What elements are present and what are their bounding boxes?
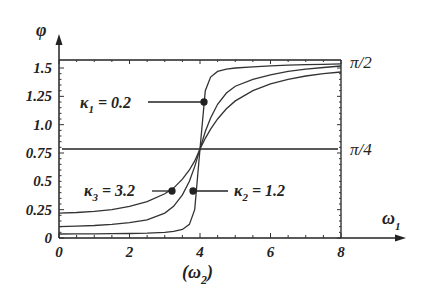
k2-label: κ2 = 1.2 — [234, 182, 285, 203]
pi-over-4-label: π/4 — [350, 140, 372, 159]
k3-label: κ3 = 3.2 — [84, 182, 135, 203]
tick-labels: 0246800.250.50.751.01.251.5 — [26, 60, 346, 260]
y-tick-label: 1.0 — [33, 117, 52, 133]
y-axis-title: φ — [36, 20, 47, 40]
x-tick-label: 2 — [125, 244, 134, 260]
y-axis-arrow-icon — [56, 34, 63, 45]
x-tick-label: 6 — [267, 244, 275, 260]
x-tick-label: 4 — [195, 244, 204, 260]
y-tick-label: 0.5 — [33, 173, 52, 189]
y-tick-label: 0.25 — [26, 202, 53, 218]
x-tick-label: 8 — [337, 244, 345, 260]
x-axis-subtitle: (ω2) — [182, 262, 213, 287]
x-tick-label: 0 — [55, 244, 63, 260]
k3-marker — [169, 188, 175, 194]
phase-chart: 0246800.250.50.751.01.251.5 κ1 = 0.2 κ3 … — [0, 0, 423, 305]
k2-marker — [190, 188, 196, 194]
x-axis-title: ω1 — [382, 208, 401, 232]
annotations — [148, 99, 228, 194]
x-axis-arrow-icon — [395, 235, 406, 242]
pi-over-2-label: π/2 — [350, 53, 372, 72]
y-tick-label: 0 — [45, 230, 53, 246]
y-tick-label: 1.25 — [26, 88, 53, 104]
y-tick-label: 0.75 — [26, 145, 53, 161]
y-tick-label: 1.5 — [33, 60, 52, 76]
k1-label: κ1 = 0.2 — [80, 94, 131, 115]
k1-marker — [201, 99, 207, 105]
